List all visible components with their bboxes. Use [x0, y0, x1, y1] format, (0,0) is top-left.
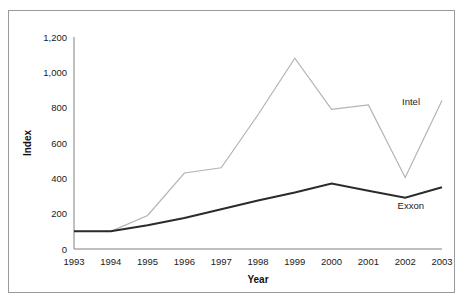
x-tick-label: 1996: [174, 256, 195, 267]
series-label-intel: Intel: [402, 96, 420, 107]
y-tick-labels: 02004006008001,0001,200: [43, 32, 67, 255]
y-tick-label: 800: [51, 102, 67, 113]
y-tick-label: 0: [62, 244, 67, 255]
x-tick-labels: 1993199419951996199719981999200020012002…: [63, 256, 452, 267]
x-tick-label: 1997: [211, 256, 232, 267]
series-label-exxon: Exxon: [398, 200, 424, 211]
y-tick-label: 600: [51, 138, 67, 149]
x-tick-label: 2002: [395, 256, 416, 267]
y-tick-label: 400: [51, 173, 67, 184]
x-axis-title: Year: [247, 274, 268, 285]
y-tick-label: 1,200: [43, 32, 67, 43]
x-tick-label: 1998: [247, 256, 268, 267]
series-paths: [74, 58, 442, 231]
x-tick-label: 2001: [358, 256, 379, 267]
y-tick-label: 1,000: [43, 67, 67, 78]
chart-figure: 02004006008001,0001,200 1993199419951996…: [8, 10, 455, 293]
x-tick-label: 1993: [63, 256, 84, 267]
series-line-exxon: [74, 184, 442, 232]
x-tick-label: 1999: [284, 256, 305, 267]
y-tick-label: 200: [51, 208, 67, 219]
line-chart: 02004006008001,0001,200 1993199419951996…: [9, 11, 456, 294]
x-tick-label: 2003: [431, 256, 452, 267]
x-tick-label: 1994: [100, 256, 121, 267]
series-line-intel: [74, 58, 442, 231]
x-tick-label: 2000: [321, 256, 342, 267]
y-axis-title: Index: [22, 130, 33, 157]
x-tick-label: 1995: [137, 256, 158, 267]
